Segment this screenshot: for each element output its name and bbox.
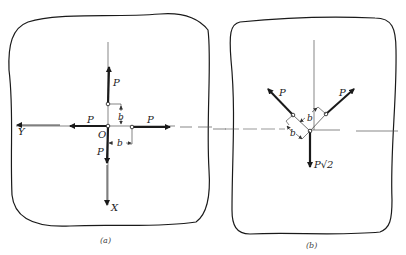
label-axis-x: X — [110, 202, 119, 213]
label-force-upper-right: P — [338, 87, 346, 98]
label-dim-horizontal: b — [117, 138, 123, 148]
caption-a: (a) — [100, 236, 111, 245]
figure: P P P P O b b Y X (a) — [0, 0, 406, 255]
origin-point — [106, 124, 110, 128]
label-force-left: P — [86, 114, 94, 125]
label-force-down-b: P√2 — [313, 159, 333, 170]
label-force-right: P — [146, 114, 154, 125]
caption-b: (b) — [306, 241, 317, 250]
label-dim-lower: b — [290, 128, 296, 138]
force-down-arrow — [107, 127, 108, 163]
label-force-upper-left: P — [278, 87, 286, 98]
label-axis-y: Y — [18, 126, 26, 137]
label-origin: O — [98, 129, 106, 140]
panel-a-labels: P P P P O b b Y X (a) — [18, 77, 154, 245]
plate-outline-b — [230, 17, 396, 234]
panel-a — [9, 14, 212, 227]
panel-b — [213, 17, 398, 234]
label-dim-upper: b — [307, 113, 313, 123]
label-force-up: P — [112, 77, 120, 88]
plate-outline-a — [9, 14, 210, 227]
label-dim-vertical: b — [118, 112, 124, 122]
label-force-down: P — [96, 146, 104, 157]
force-up-arrow — [108, 67, 109, 104]
